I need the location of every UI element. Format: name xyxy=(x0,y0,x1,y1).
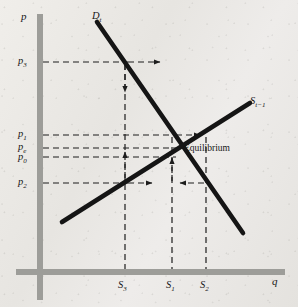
cobweb-model-figure: p q Dt St−1 Equilibrium p3 p1 pe p0 p2 S… xyxy=(0,0,298,307)
quantity-tick-s1-subscript: 1 xyxy=(171,285,175,293)
quantity-axis-label: q xyxy=(272,276,278,287)
price-tick-p3-subscript: 3 xyxy=(23,61,27,69)
supply-curve-label: St−1 xyxy=(250,96,265,109)
price-tick-p0-subscript: 0 xyxy=(23,157,27,165)
price-tick-p3: p3 xyxy=(18,56,27,69)
quantity-tick-s3: S3 xyxy=(118,280,127,293)
plot-canvas xyxy=(0,0,298,307)
price-tick-p2: p2 xyxy=(18,177,27,190)
price-tick-p2-subscript: 2 xyxy=(23,182,27,190)
supply-curve-label-subscript: t−1 xyxy=(255,101,265,109)
demand-curve-label: Dt xyxy=(92,11,102,24)
quantity-tick-s2: S2 xyxy=(200,280,209,293)
quantity-tick-s3-subscript: 3 xyxy=(123,285,127,293)
equilibrium-label: Equilibrium xyxy=(184,144,230,154)
price-axis-label: p xyxy=(21,11,27,22)
demand-curve xyxy=(97,22,243,233)
demand-curve-label-base: D xyxy=(92,10,100,21)
price-tick-p0: p0 xyxy=(18,152,27,165)
demand-curve-label-subscript: t xyxy=(100,16,102,24)
quantity-tick-s2-subscript: 2 xyxy=(205,285,209,293)
quantity-tick-s1: S1 xyxy=(166,280,175,293)
price-tick-p1-subscript: 1 xyxy=(23,134,27,142)
